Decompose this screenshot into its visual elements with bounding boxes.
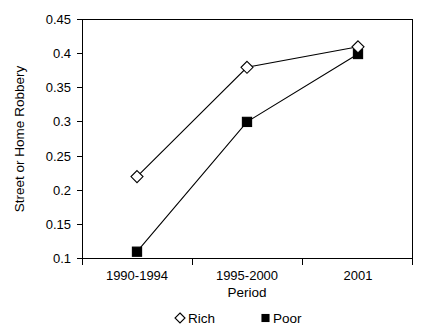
legend-open-diamond-icon — [175, 313, 185, 323]
chart-legend: Rich Poor — [175, 311, 302, 326]
y-tick-label-035: 0.35 — [46, 80, 71, 95]
chart-canvas: 0.45 0.4 0.35 0.3 0.25 0.2 0.15 0.1 1990… — [0, 0, 431, 332]
x-axis-ticks — [83, 259, 413, 265]
legend-filled-square-icon — [262, 315, 269, 322]
series-poor-point-1 — [242, 117, 251, 126]
y-tick-label-010: 0.1 — [53, 251, 71, 266]
y-tick-label-045: 0.45 — [46, 12, 71, 27]
line-chart: 0.45 0.4 0.35 0.3 0.25 0.2 0.15 0.1 1990… — [0, 0, 431, 332]
y-axis-tick-labels: 0.45 0.4 0.35 0.3 0.25 0.2 0.15 0.1 — [46, 12, 71, 266]
x-axis-category-labels: 1990-1994 1995-2000 2001 — [106, 268, 373, 283]
x-category-label-2: 2001 — [344, 268, 373, 283]
y-tick-label-020: 0.2 — [53, 183, 71, 198]
legend-item-rich[interactable]: Rich — [175, 311, 215, 326]
x-category-label-1: 1995-2000 — [216, 268, 278, 283]
y-tick-label-015: 0.15 — [46, 217, 71, 232]
legend-label-rich: Rich — [188, 311, 215, 326]
x-axis-title: Period — [227, 285, 266, 300]
y-tick-label-025: 0.25 — [46, 149, 71, 164]
y-axis-title: Street or Home Robbery — [12, 66, 27, 213]
legend-item-poor[interactable]: Poor — [262, 311, 302, 326]
series-poor-line — [137, 54, 358, 252]
y-axis-ticks — [77, 20, 83, 259]
series-rich — [131, 41, 364, 183]
y-tick-label-040: 0.4 — [53, 46, 71, 61]
x-category-label-0: 1990-1994 — [106, 268, 168, 283]
legend-label-poor: Poor — [273, 311, 302, 326]
y-tick-label-030: 0.3 — [53, 114, 71, 129]
series-poor-point-0 — [132, 247, 141, 256]
series-poor — [132, 49, 362, 256]
